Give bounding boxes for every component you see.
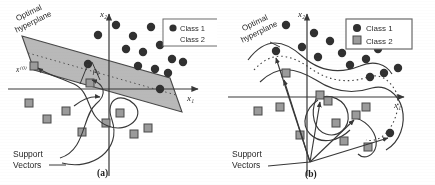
legend-circle-icon: [169, 24, 176, 31]
legend-b: Class 1 Class 2: [346, 19, 412, 49]
legend-label-class2: Class 2: [366, 37, 393, 46]
legend-circle-icon: [353, 24, 361, 32]
optimal-hyperplane-label: Optimal hyperplane: [235, 10, 279, 45]
optimal-hyperplane-label: Optimal hyperplane: [9, 0, 53, 35]
caption-b: (b): [305, 169, 317, 180]
support-vector-square: [30, 62, 38, 70]
panel-a-canvas: x₂ x₁: [0, 0, 217, 185]
support-vectors-line1: Support: [13, 149, 43, 159]
caption-a: (a): [97, 168, 108, 179]
support-vector-square: [352, 111, 360, 119]
panel-b-canvas: x₂ x₁: [218, 0, 435, 185]
legend-square-icon: [353, 36, 361, 44]
legend-label-class1: Class 1: [180, 24, 205, 33]
support-vector-square: [316, 91, 324, 99]
legend-a: Class 1 Class 2: [163, 19, 217, 46]
support-vectors-line2: Vectors: [13, 160, 41, 170]
svm-figure: x₂ x₁: [0, 0, 435, 185]
support-vector-circle: [272, 47, 280, 55]
axis-x-label: x₁: [186, 93, 194, 103]
margin-label: ρ₀: [92, 66, 100, 75]
support-vectors-line2: Vectors: [232, 160, 260, 170]
axis-y-label: x₂: [297, 9, 305, 19]
point-label: x⁽⁰⁾: [15, 65, 27, 74]
panel-b: x₂ x₁: [218, 0, 435, 185]
support-vector-circle: [156, 85, 164, 93]
legend-label-class2: Class 2: [180, 35, 205, 44]
panel-a: x₂ x₁: [0, 0, 217, 185]
support-vectors-line1: Support: [232, 149, 262, 159]
support-vector-circle: [366, 73, 374, 81]
support-vector-circle: [386, 129, 394, 137]
legend-label-class1: Class 1: [366, 24, 393, 33]
axis-y-label: x₂: [99, 9, 107, 19]
support-vector-square: [282, 69, 290, 77]
